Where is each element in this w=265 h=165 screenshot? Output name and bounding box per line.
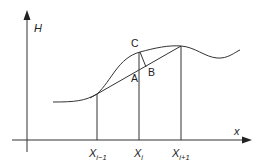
x-axis-arrow-icon xyxy=(242,137,252,144)
tick-sub: i−1 xyxy=(96,153,106,162)
x-axis: x xyxy=(12,125,252,144)
tick-label-xi: Xi xyxy=(133,147,143,162)
perpendicular-cb xyxy=(140,52,146,67)
svg-text:Xi+1: Xi+1 xyxy=(171,147,190,162)
point-label-a: A xyxy=(131,72,138,84)
y-axis-arrow-icon xyxy=(24,10,31,20)
x-axis-label: x xyxy=(233,125,240,137)
y-axis: H xyxy=(24,10,43,152)
diagram-canvas: H x C A B Xi−1 Xi Xi+1 xyxy=(0,0,265,165)
y-axis-label: H xyxy=(34,22,42,34)
svg-text:Xi−1: Xi−1 xyxy=(88,147,107,162)
curve-h xyxy=(53,46,240,102)
point-label-b: B xyxy=(148,66,155,78)
tick-sub: i+1 xyxy=(179,153,189,162)
tick-sub: i xyxy=(141,153,143,162)
svg-text:Xi: Xi xyxy=(133,147,143,162)
point-label-c: C xyxy=(131,37,139,49)
tick-label-xi-minus-1: Xi−1 xyxy=(88,147,107,162)
tick-label-xi-plus-1: Xi+1 xyxy=(171,147,190,162)
